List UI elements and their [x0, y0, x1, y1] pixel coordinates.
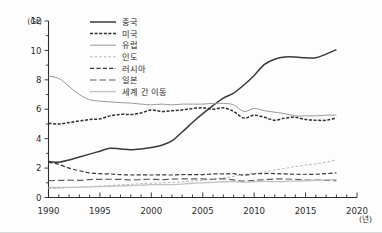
- y-tick-label: 8: [36, 75, 41, 85]
- x-tick-label: 2015: [295, 206, 317, 216]
- x-tick-label: 1990: [38, 206, 60, 216]
- series-line: [49, 50, 337, 163]
- legend-label: 중국: [122, 17, 138, 27]
- x-tick-label: 2005: [192, 206, 214, 216]
- x-tick-label: 2000: [140, 206, 162, 216]
- legend-label: 인도: [122, 52, 138, 62]
- y-tick-label: 0: [36, 193, 41, 203]
- x-tick-label: 2010: [243, 206, 265, 216]
- emissions-line-chart: (Gt) 121086420 1990199520002005201020152…: [0, 0, 382, 233]
- y-tick-label: 10: [31, 46, 42, 56]
- legend-label: 세계 간 이동: [122, 87, 167, 97]
- x-axis-unit-label: (년): [359, 214, 372, 224]
- series-lines: [49, 50, 337, 189]
- x-axis-ticks: 1990199520002005201020152020: [38, 193, 368, 216]
- chart-page: (Gt) 121086420 1990199520002005201020152…: [0, 0, 382, 233]
- y-tick-label: 12: [31, 16, 42, 26]
- chart-legend: 중국미국유럽인도러시아일본세계 간 이동: [90, 17, 167, 97]
- legend-label: 미국: [122, 29, 138, 39]
- y-axis-ticks: 121086420: [31, 16, 49, 203]
- y-tick-label: 4: [36, 134, 41, 144]
- legend-label: 러시아: [122, 64, 146, 74]
- y-tick-label: 2: [36, 163, 41, 173]
- series-line: [49, 162, 337, 175]
- series-line: [49, 76, 337, 116]
- legend-label: 유럽: [122, 40, 138, 50]
- x-tick-label: 2020: [346, 206, 368, 216]
- legend-label: 일본: [122, 75, 138, 85]
- x-tick-label: 1995: [89, 206, 111, 216]
- y-tick-label: 6: [36, 104, 41, 114]
